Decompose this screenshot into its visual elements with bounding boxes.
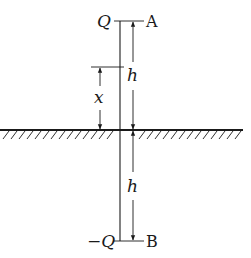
lower-h-label: h — [127, 176, 138, 196]
x-label: x — [94, 87, 104, 107]
point-a-label: A — [145, 12, 158, 31]
point-b-label: B — [146, 232, 158, 251]
upper-h-label: h — [127, 65, 138, 85]
top-charge-label: Q — [97, 11, 111, 31]
image-charge-diagram: Q A h x h −Q B — [0, 0, 251, 258]
ground-hatching — [3, 131, 241, 139]
bottom-charge-label: −Q — [87, 231, 115, 251]
